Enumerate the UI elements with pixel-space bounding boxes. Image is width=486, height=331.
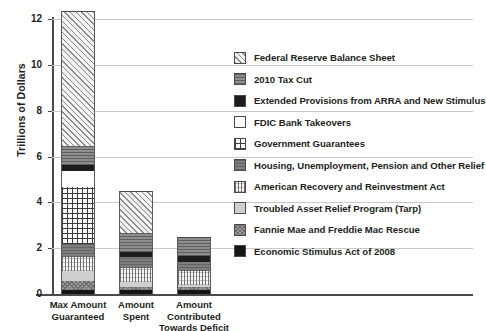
legend-label: Federal Reserve Balance Sheet [254, 52, 395, 63]
bar-segment[interactable] [61, 146, 95, 165]
bar-segment[interactable] [61, 187, 95, 244]
y-tick-label: 0 [18, 289, 42, 299]
bar-2[interactable] [119, 191, 153, 294]
x-category-label-3: AmountContributedTowards Deficit [146, 299, 242, 331]
bar-3[interactable] [177, 237, 211, 294]
legend-item[interactable]: Government Guarantees [234, 133, 478, 155]
y-tick-label: 8 [18, 106, 42, 116]
bar-segment[interactable] [119, 233, 153, 252]
legend-label: FDIC Bank Takeovers [254, 117, 351, 128]
legend-label: Fannie Mae and Freddie Mac Rescue [254, 224, 420, 235]
bar-segment[interactable] [177, 285, 211, 287]
legend-label: Extended Provisions from ARRA and New St… [254, 95, 486, 106]
bar-segment[interactable] [119, 257, 153, 267]
bar-segment[interactable] [119, 287, 153, 290]
bar-segment[interactable] [119, 268, 153, 282]
legend-swatch [234, 73, 246, 85]
legend-swatch [234, 181, 246, 193]
chart-legend: Federal Reserve Balance Sheet2010 Tax Cu… [234, 47, 478, 262]
legend-label: 2010 Tax Cut [254, 74, 312, 85]
bar-segment[interactable] [61, 290, 95, 294]
legend-label: Housing, Unemployment, Pension and Other… [254, 160, 484, 171]
legend-swatch [234, 52, 246, 64]
bar-segment[interactable] [61, 257, 95, 271]
legend-swatch [234, 95, 246, 107]
legend-swatch [234, 116, 246, 128]
legend-label: Government Guarantees [254, 138, 365, 149]
x-axis-line [36, 294, 473, 296]
legend-item[interactable]: American Recovery and Reinvestment Act [234, 176, 478, 198]
legend-item[interactable]: Federal Reserve Balance Sheet [234, 47, 478, 69]
bar-segment[interactable] [61, 281, 95, 290]
y-tick-label: 12 [18, 14, 42, 24]
bar-segment[interactable] [61, 271, 95, 281]
legend-swatch [234, 138, 246, 150]
bar-segment[interactable] [177, 262, 211, 271]
legend-swatch [234, 224, 246, 236]
y-tick-label: 2 [18, 243, 42, 253]
bar-segment[interactable] [61, 171, 95, 188]
bar-segment[interactable] [119, 290, 153, 294]
legend-item[interactable]: Troubled Asset Relief Program (Tarp) [234, 198, 478, 220]
legend-item[interactable]: FDIC Bank Takeovers [234, 112, 478, 134]
legend-label: Troubled Asset Relief Program (Tarp) [254, 203, 421, 214]
legend-item[interactable]: Housing, Unemployment, Pension and Other… [234, 155, 478, 177]
bar-segment[interactable] [119, 191, 153, 233]
y-tick-label: 4 [18, 197, 42, 207]
legend-label: American Recovery and Reinvestment Act [254, 181, 445, 192]
y-tick-label: 10 [18, 60, 42, 70]
bar-segment[interactable] [177, 290, 211, 294]
plot-area [52, 19, 220, 294]
bar-segment[interactable] [119, 252, 153, 258]
legend-item[interactable]: 2010 Tax Cut [234, 69, 478, 91]
bar-segment[interactable] [119, 282, 153, 287]
y-tick-label: 6 [18, 152, 42, 162]
bar-1[interactable] [61, 11, 95, 294]
bar-segment[interactable] [61, 244, 95, 257]
bar-segment[interactable] [177, 271, 211, 285]
bar-segment[interactable] [177, 237, 211, 256]
bar-segment[interactable] [61, 11, 95, 146]
bar-segment[interactable] [177, 287, 211, 290]
legend-swatch [234, 202, 246, 214]
legend-item[interactable]: Economic Stimulus Act of 2008 [234, 241, 478, 263]
bar-segment[interactable] [177, 256, 211, 262]
legend-swatch [234, 245, 246, 257]
legend-swatch [234, 159, 246, 171]
legend-item[interactable]: Extended Provisions from ARRA and New St… [234, 90, 478, 112]
legend-item[interactable]: Fannie Mae and Freddie Mac Rescue [234, 219, 478, 241]
legend-label: Economic Stimulus Act of 2008 [254, 246, 395, 257]
bar-segment[interactable] [61, 165, 95, 171]
y-tick-mark [48, 294, 53, 295]
